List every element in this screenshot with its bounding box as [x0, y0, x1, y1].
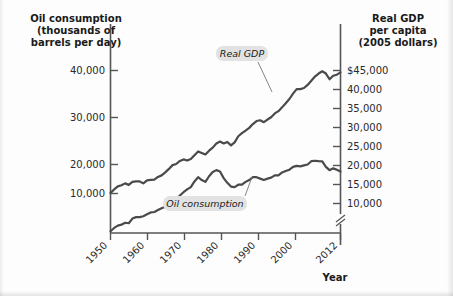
- left-axis-tick-labels: 40,000 30,000 20,000 10,000: [70, 65, 105, 199]
- real-gdp-label: Real GDP: [220, 48, 265, 59]
- right-tick-label-10000: 10,000: [347, 198, 382, 209]
- x-axis-ticks: [111, 233, 341, 240]
- right-tick-label-15000: 15,000: [347, 179, 382, 190]
- left-axis-title-line2: (thousands of: [37, 25, 116, 36]
- oil-consumption-vs-real-gdp-chart: Oil consumption (thousands of barrels pe…: [0, 0, 453, 296]
- x-tick-label-1980: 1980: [195, 240, 221, 266]
- left-tick-label-10000: 10,000: [70, 188, 105, 199]
- x-tick-label-1970: 1970: [158, 240, 184, 266]
- right-tick-label-45000: $45,000: [347, 65, 388, 76]
- annotation-real-gdp: Real GDP: [216, 46, 272, 92]
- oil-consumption-label: Oil consumption: [166, 198, 243, 209]
- right-tick-label-35000: 35,000: [347, 103, 382, 114]
- x-tick-label-2000: 2000: [269, 240, 295, 266]
- annotation-oil-consumption: Oil consumption: [163, 177, 252, 211]
- right-axis-title: Real GDP per capita (2005 dollars): [359, 13, 438, 48]
- x-tick-label-1990: 1990: [232, 240, 258, 266]
- x-axis-name: Year: [322, 272, 348, 283]
- left-axis-title-line1: Oil consumption: [30, 13, 122, 24]
- right-axis-title-line2: per capita: [369, 25, 426, 36]
- right-tick-label-30000: 30,000: [347, 122, 382, 133]
- left-axis-ticks: [111, 71, 119, 194]
- series-line-real-gdp: [111, 71, 341, 193]
- x-tick-label-1960: 1960: [121, 240, 147, 266]
- right-axis-ticks: [333, 71, 341, 204]
- right-axis-title-line3: (2005 dollars): [359, 37, 438, 48]
- left-axis-title-line3: barrels per day): [31, 37, 121, 48]
- left-tick-label-40000: 40,000: [70, 65, 105, 76]
- x-axis-tick-labels: 1950 1960 1970 1980 1990 2000 2012: [84, 240, 340, 266]
- chart-figure: Oil consumption (thousands of barrels pe…: [0, 0, 453, 296]
- right-tick-label-40000: 40,000: [347, 84, 382, 95]
- right-tick-label-20000: 20,000: [347, 160, 382, 171]
- right-axis-title-line1: Real GDP: [372, 13, 424, 24]
- series-line-oil-consumption: [111, 161, 341, 232]
- right-axis-tick-labels: $45,000 40,000 35,000 30,000 25,000 20,0…: [347, 65, 388, 209]
- right-tick-label-25000: 25,000: [347, 141, 382, 152]
- left-axis-title: Oil consumption (thousands of barrels pe…: [30, 13, 122, 48]
- left-tick-label-30000: 30,000: [70, 112, 105, 123]
- x-tick-label-2012: 2012: [314, 240, 340, 266]
- left-tick-label-20000: 20,000: [70, 159, 105, 170]
- real-gdp-leader-line: [258, 62, 272, 92]
- x-tick-label-1950: 1950: [84, 240, 110, 266]
